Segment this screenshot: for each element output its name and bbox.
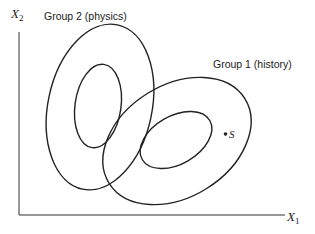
group-1-label: Group 1 (history): [213, 58, 292, 70]
point-s-marker: [224, 132, 228, 136]
group-2-outer-ellipse: [32, 14, 169, 200]
group-1-outer-ellipse: [79, 51, 274, 231]
point-s-label: S: [229, 128, 235, 140]
group-2-contours: [32, 14, 169, 200]
x-axis-label: X1: [286, 209, 299, 226]
group-2-inner-ellipse: [69, 61, 126, 151]
group-1-contours: [79, 51, 274, 231]
group-2-label: Group 2 (physics): [44, 10, 127, 22]
y-axis-label: X2: [10, 6, 23, 23]
diagram-canvas: X2 X1 Group 2 (physics) Group 1 (history…: [0, 0, 315, 234]
